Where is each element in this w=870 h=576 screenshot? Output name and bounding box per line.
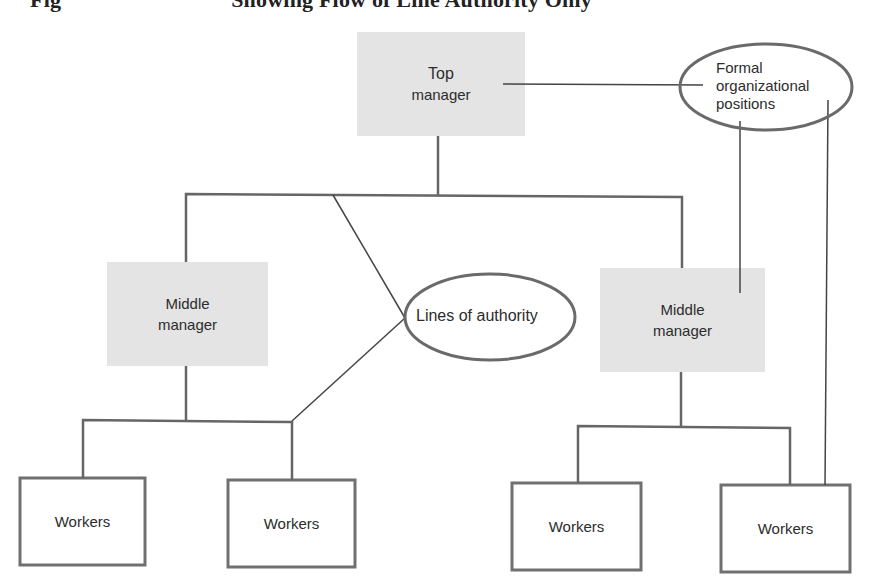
pointer-authority-upper xyxy=(333,195,405,318)
workers-label-1: Workers xyxy=(20,478,145,565)
right-workers-bar xyxy=(578,426,790,485)
middle-level-bar xyxy=(186,194,682,268)
middle-manager-right-line1: Middle xyxy=(660,299,704,320)
workers-label-4: Workers xyxy=(721,485,850,572)
formal-positions-label: Formal organizational positions xyxy=(716,59,809,113)
formal-positions-line1: Formal xyxy=(716,59,809,77)
formal-positions-line2: organizational xyxy=(716,77,809,95)
middle-manager-right-line2: manager xyxy=(653,320,712,341)
top-manager-label: Top manager xyxy=(357,32,525,136)
middle-manager-left-line2: manager xyxy=(158,314,217,335)
workers-3-text: Workers xyxy=(549,516,605,537)
middle-manager-left-label: Middle manager xyxy=(107,262,268,366)
formal-positions-line3: positions xyxy=(716,95,809,113)
workers-label-2: Workers xyxy=(228,480,355,567)
pointer-top-manager xyxy=(503,84,703,85)
pointer-authority-lower xyxy=(292,318,405,421)
middle-manager-right-label: Middle manager xyxy=(600,268,765,372)
middle-manager-left-line1: Middle xyxy=(165,293,209,314)
workers-2-text: Workers xyxy=(264,513,320,534)
pointer-right-workers xyxy=(825,100,828,485)
workers-label-3: Workers xyxy=(512,483,641,570)
workers-4-text: Workers xyxy=(758,518,814,539)
left-workers-bar xyxy=(83,420,292,480)
top-manager-line2: manager xyxy=(411,84,470,105)
lines-of-authority-text: Lines of authority xyxy=(416,307,538,324)
top-manager-line1: Top xyxy=(428,63,454,84)
lines-of-authority-label: Lines of authority xyxy=(416,307,538,325)
workers-1-text: Workers xyxy=(55,511,111,532)
